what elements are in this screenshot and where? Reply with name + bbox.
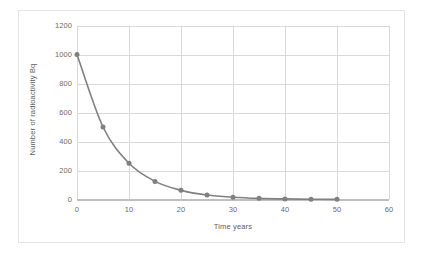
- data-point-45: [309, 197, 314, 202]
- data-point-25: [205, 193, 210, 198]
- x-tick-label-30: 30: [218, 205, 248, 214]
- x-axis-title: Time years: [77, 222, 389, 231]
- x-tick-label-50: 50: [322, 205, 352, 214]
- data-point-15: [153, 179, 158, 184]
- data-point-35: [257, 196, 262, 201]
- data-point-5: [101, 125, 106, 130]
- chart-plot-svg: [0, 0, 423, 257]
- data-point-20: [179, 188, 184, 193]
- x-tick-label-0: 0: [62, 205, 92, 214]
- series-line-radioactivity: [77, 55, 337, 200]
- data-point-40: [283, 196, 288, 201]
- y-tick-label-600: 600: [46, 108, 72, 117]
- series-markers-radioactivity: [75, 52, 340, 202]
- x-tick-label-10: 10: [114, 205, 144, 214]
- y-tick-label-400: 400: [46, 137, 72, 146]
- y-tick-label-1000: 1000: [46, 50, 72, 59]
- data-point-10: [127, 161, 132, 166]
- x-tick-label-60: 60: [374, 205, 404, 214]
- y-axis-title-text: Number of radioactivity Bq: [29, 63, 38, 155]
- data-point-0: [75, 52, 80, 57]
- x-tick-label-40: 40: [270, 205, 300, 214]
- y-tick-label-0: 0: [46, 195, 72, 204]
- x-tick-label-20: 20: [166, 205, 196, 214]
- y-tick-label-200: 200: [46, 166, 72, 175]
- y-axis-title: Number of radioactivity Bq: [26, 18, 40, 200]
- data-point-30: [231, 195, 236, 200]
- vertical-gridlines: [78, 26, 390, 200]
- y-tick-label-800: 800: [46, 79, 72, 88]
- y-tick-label-1200: 1200: [46, 21, 72, 30]
- data-point-50: [335, 197, 340, 202]
